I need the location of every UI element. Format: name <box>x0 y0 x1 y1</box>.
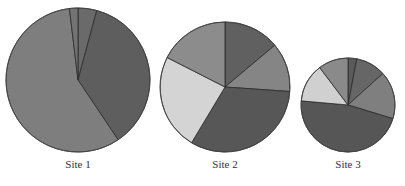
pie-1 <box>6 8 150 152</box>
pie-3 <box>301 58 395 152</box>
pie-label-site-3: Site 3 <box>308 158 388 170</box>
pie-2 <box>160 22 290 152</box>
pie-label-site-1: Site 1 <box>38 158 118 170</box>
pie-label-site-2: Site 2 <box>185 158 265 170</box>
